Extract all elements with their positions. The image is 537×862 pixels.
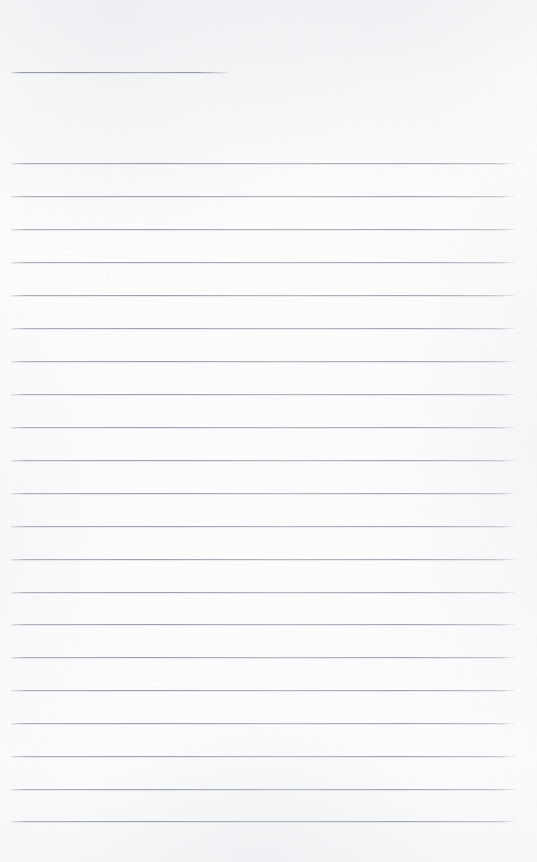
writing-area[interactable] xyxy=(11,60,515,840)
scanned-page xyxy=(0,0,537,862)
